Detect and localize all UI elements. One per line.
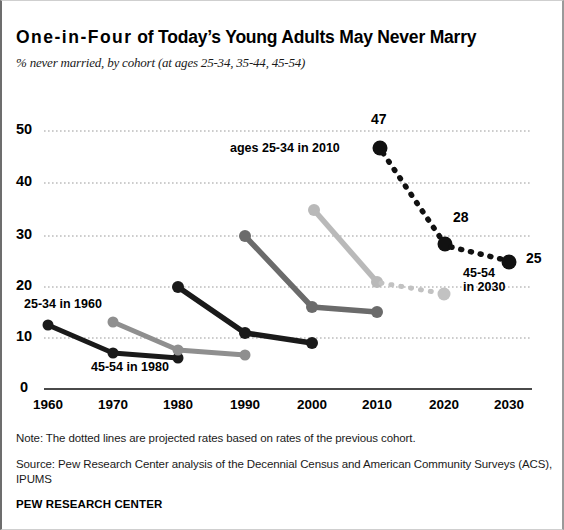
chart-footer: Note: The dotted lines are projected rat…	[16, 431, 556, 510]
projection-2020-to-2030	[451, 247, 505, 260]
footnote-note: Note: The dotted lines are projected rat…	[16, 431, 556, 446]
plot-area: 50 40 30 20 10 0 1960 1970 1980 1990 200…	[2, 1, 564, 421]
plot-svg	[2, 1, 564, 421]
x-tick-2020: 2020	[414, 397, 474, 412]
projection-2000-cohort	[381, 283, 440, 293]
y-tick-40: 40	[16, 173, 32, 189]
y-tick-20: 20	[16, 277, 32, 293]
y-tick-50: 50	[16, 121, 32, 137]
x-tick-2000: 2000	[282, 397, 342, 412]
x-tick-2010: 2010	[347, 397, 407, 412]
x-tick-1980: 1980	[148, 397, 208, 412]
series-ages-25-34-in-2010	[373, 141, 517, 270]
y-tick-0: 0	[20, 379, 28, 395]
y-tick-30: 30	[16, 226, 32, 242]
annotation-25-34-in-1960: 25-34 in 1960	[24, 297, 102, 311]
data-label-28: 28	[453, 209, 469, 225]
x-tick-2030: 2030	[479, 397, 539, 412]
x-tick-1990: 1990	[215, 397, 275, 412]
y-tick-10: 10	[16, 328, 32, 344]
data-label-25: 25	[526, 250, 542, 266]
chart-figure: One-in-Four of Today’s Young Adults May …	[0, 0, 564, 530]
x-tick-1970: 1970	[83, 397, 143, 412]
footnote-brand: PEW RESEARCH CENTER	[16, 498, 556, 510]
projection-2010-to-2020	[383, 153, 442, 240]
annotation-45-54-2030-line1: 45-54	[463, 266, 495, 280]
annotation-45-54-in-1980: 45-54 in 1980	[91, 360, 169, 374]
gridlines	[44, 131, 532, 338]
series-25-34-in-1990	[239, 230, 383, 318]
point-25	[502, 255, 517, 270]
footnote-source: Source: Pew Research Center analysis of …	[16, 457, 556, 487]
annotation-45-54-2030-line2: in 2030	[463, 280, 505, 294]
x-tick-1960: 1960	[18, 397, 78, 412]
annotation-ages-25-34-in-2010: ages 25-34 in 2010	[230, 141, 340, 155]
data-label-47: 47	[371, 111, 387, 127]
